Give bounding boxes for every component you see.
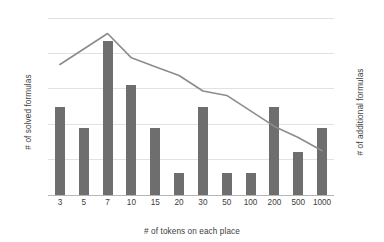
x-axis-tick-label: 100 xyxy=(239,198,263,208)
x-axis-tick-label: 15 xyxy=(143,198,167,208)
y-axis-right-title: # of additional formulas xyxy=(355,27,367,197)
x-axis-title: # of tokens on each place xyxy=(0,227,384,236)
x-axis-tick-label: 10 xyxy=(120,198,144,208)
x-axis-tick-label: 7 xyxy=(96,198,120,208)
x-axis-tick-label: 3 xyxy=(48,198,72,208)
x-axis-tick-label: 500 xyxy=(286,198,310,208)
x-axis-tick-label: 20 xyxy=(167,198,191,208)
x-axis-tick-label: 1000 xyxy=(310,198,334,208)
x-axis-tick-label: 50 xyxy=(215,198,239,208)
line-series-svg xyxy=(48,18,334,195)
line-series-path xyxy=(60,33,322,150)
gridline xyxy=(48,195,334,196)
y-axis-left-title: # of solved formulas xyxy=(23,27,35,197)
x-axis-tick-label: 30 xyxy=(191,198,215,208)
x-axis-tick-label: 200 xyxy=(263,198,287,208)
x-axis-tick-label: 5 xyxy=(72,198,96,208)
plot-area: 050100150200250 012345678 35710152030501… xyxy=(48,18,334,195)
chart-container: # of solved formulas # of additional for… xyxy=(0,0,384,242)
